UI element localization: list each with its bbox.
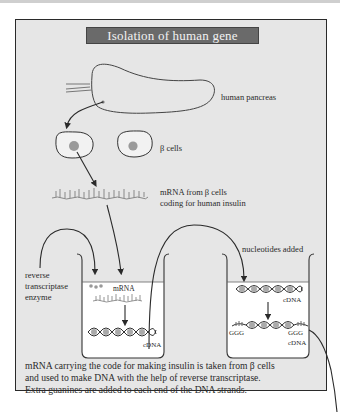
label-mrna-line1: mRNA from β cells: [160, 187, 227, 197]
label-beta-cells: β cells: [160, 143, 182, 153]
label-enzyme-line1: reverse: [25, 270, 50, 280]
label-tube2-cdna-bottom: cDNA: [288, 338, 306, 348]
label-ggg-left: GGG: [229, 328, 244, 338]
label-tube1-cdna: cDNA: [143, 340, 161, 350]
arrow-pancreas-to-cell: [67, 102, 103, 126]
pancreas-icon: [66, 64, 214, 113]
label-mrna-line2: coding for human insulin: [160, 198, 246, 208]
label-ggg-right: GGG: [288, 328, 303, 338]
arrow-cell-to-mrna: [77, 152, 95, 184]
label-tube2-cdna-top: cDNA: [283, 295, 301, 305]
mrna-strand-icon: [52, 188, 148, 199]
label-nucleotides-added: nucleotides added: [242, 244, 303, 254]
caption-line-2: and used to make DNA with the help of re…: [25, 372, 325, 384]
label-enzyme-line3: enzyme: [25, 292, 51, 302]
arrow-enzyme-to-tube: [40, 229, 95, 272]
beta-cell-icon: [118, 131, 153, 157]
label-enzyme-line2: transcriptase: [25, 281, 68, 291]
caption-line-3: Extra guanines are added to each end of …: [25, 384, 325, 396]
caption-line-1: mRNA carrying the code for making insuli…: [25, 360, 325, 372]
label-human-pancreas: human pancreas: [221, 92, 276, 102]
beta-cell-icon: [56, 132, 93, 158]
arrow-mrna-to-tube: [107, 205, 121, 272]
label-tube1-mrna: mRNA: [113, 284, 135, 294]
caption: mRNA carrying the code for making insuli…: [25, 360, 325, 396]
